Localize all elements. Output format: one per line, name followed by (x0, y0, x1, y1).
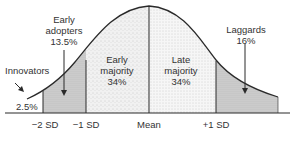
innovators-name: Innovators (5, 65, 49, 76)
tick-minus-2sd: −2 SD (32, 119, 59, 130)
innovators-label: Innovators (5, 65, 49, 76)
segment-laggards (216, 0, 278, 113)
late-majority-label: Late majority 34% (158, 54, 204, 87)
early-adopters-label: Early adopters 13.5% (42, 14, 86, 47)
early-majority-label: Early majority 34% (95, 54, 139, 87)
innovators-arrow-icon (15, 83, 24, 92)
tick-minus-1sd: −1 SD (73, 119, 100, 130)
laggards-label: Laggards 16% (224, 24, 268, 46)
tick-mean: Mean (137, 119, 161, 130)
tick-plus-1sd: +1 SD (203, 119, 230, 130)
innovators-percent: 2.5% (16, 101, 38, 112)
